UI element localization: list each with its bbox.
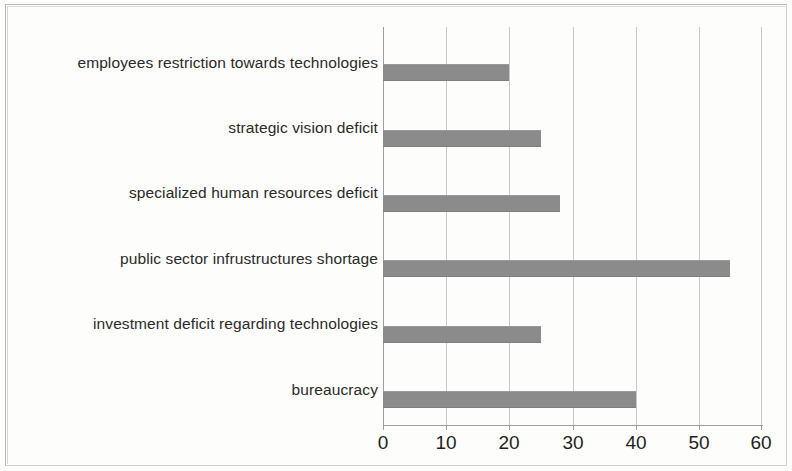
bar-specialized-human-resources — [383, 195, 560, 212]
bar-strategic-vision — [383, 130, 541, 147]
x-tick-label-40: 40 — [613, 432, 659, 454]
bar-investment-deficit — [383, 326, 541, 343]
category-label-specialized-human-resources: specialized human resources deficit — [8, 184, 378, 202]
gridline-40 — [636, 27, 637, 425]
category-label-investment-deficit: investment deficit regarding technologie… — [8, 315, 378, 333]
gridline-30 — [573, 27, 574, 425]
plot-area — [383, 27, 762, 425]
x-tick-label-60: 60 — [738, 432, 784, 454]
gridline-10 — [446, 27, 447, 425]
x-tick-mark-60 — [761, 425, 762, 430]
category-label-bureaucracy: bureaucracy — [8, 381, 378, 399]
x-tick-label-50: 50 — [676, 432, 722, 454]
x-tick-label-20: 20 — [486, 432, 532, 454]
bar-chart-figure: employees restriction towards technologi… — [0, 0, 792, 471]
category-axis-labels: employees restriction towards technologi… — [4, 0, 378, 471]
x-tick-label-0: 0 — [360, 432, 406, 454]
x-tick-mark-10 — [446, 425, 447, 430]
bar-bureaucracy — [383, 391, 636, 408]
x-tick-mark-0 — [383, 425, 384, 430]
bar-public-sector-infrastructures — [383, 260, 730, 277]
x-tick-label-30: 30 — [550, 432, 596, 454]
x-tick-mark-40 — [636, 425, 637, 430]
gridline-50 — [699, 27, 700, 425]
gridline-60 — [761, 27, 762, 425]
category-label-strategic-vision: strategic vision deficit — [8, 119, 378, 137]
category-label-public-sector-infrastructures: public sector infrustructures shortage — [8, 250, 378, 268]
gridline-0 — [383, 27, 384, 425]
x-tick-label-10: 10 — [423, 432, 469, 454]
category-label-employees-restriction: employees restriction towards technologi… — [8, 54, 378, 72]
x-tick-mark-50 — [699, 425, 700, 430]
x-tick-mark-20 — [509, 425, 510, 430]
bar-employees-restriction — [383, 64, 509, 81]
gridline-20 — [509, 27, 510, 425]
x-tick-mark-30 — [573, 425, 574, 430]
